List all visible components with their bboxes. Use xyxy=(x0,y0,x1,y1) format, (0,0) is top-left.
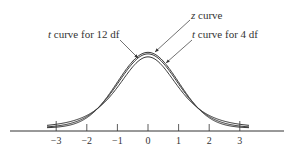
x-tick-label: −3 xyxy=(51,136,62,146)
z-curve-label: z curve xyxy=(191,10,222,21)
x-axis-ticks xyxy=(56,121,240,131)
t12-curve-label: t curve for 12 df xyxy=(48,29,119,40)
x-tick-label: 1 xyxy=(176,136,181,146)
x-tick-label: 2 xyxy=(207,136,212,146)
curve-z-curve xyxy=(47,52,249,127)
x-tick-label: 3 xyxy=(237,136,242,146)
x-tick-label: −1 xyxy=(112,136,123,146)
t4-curve-label: t curve for 4 df xyxy=(192,29,258,40)
t-vs-z-density-chart xyxy=(0,0,294,152)
x-tick-label: −2 xyxy=(81,136,92,146)
curve-t-curve-for-12-df xyxy=(47,54,249,127)
x-tick-label: 0 xyxy=(146,136,151,146)
density-curves xyxy=(47,52,249,127)
curve-t-curve-for-4-df xyxy=(47,57,249,125)
